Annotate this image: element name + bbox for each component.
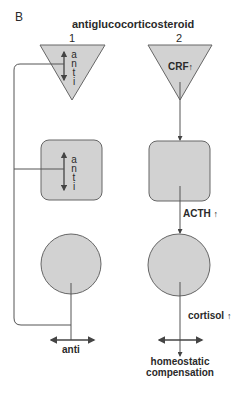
label-line-2: compensation [140,367,220,378]
gland-circle-2 [148,234,210,296]
label-line-1: homeostatic [140,356,220,367]
up-arrow-icon: ↑ [189,62,194,72]
diagram-canvas [0,0,238,394]
letter: i [70,77,78,86]
crf-label: CRF↑ [168,61,193,72]
up-arrow-icon: ↑ [227,311,232,321]
anti-output-label: anti [62,344,80,355]
panel-label: B [15,10,23,24]
square-1-anti-text: a n t i [70,155,78,191]
acth-text: ACTH [183,208,211,219]
homeostatic-compensation-label: homeostatic compensation [140,356,220,378]
column-number-1: 1 [69,32,75,44]
diagram-title: antiglucocorticosteroid [72,18,194,30]
triangle-1-anti-text: a n t i [70,50,78,86]
letter: i [70,182,78,191]
column-number-2: 2 [176,32,182,44]
cortisol-text: cortisol [188,310,224,321]
acth-label: ACTH ↑ [183,208,218,219]
crf-text: CRF [168,61,189,72]
cortisol-label: cortisol ↑ [188,310,231,321]
up-arrow-icon: ↑ [214,209,219,219]
